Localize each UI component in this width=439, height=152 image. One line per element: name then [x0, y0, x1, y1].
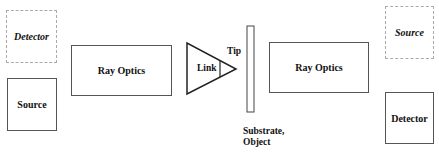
link-label: Link [197, 63, 217, 74]
substrate-bar [247, 26, 254, 112]
right-detector-box: Detector [385, 92, 434, 144]
right-ray-optics-label: Ray Optics [295, 62, 343, 73]
right-source-label: Source [395, 27, 424, 38]
substrate-label: Substrate, Object [243, 126, 284, 148]
right-source-box: Source [385, 6, 434, 59]
substrate-label-line1: Substrate, [243, 126, 284, 137]
right-detector-label: Detector [391, 113, 428, 124]
probe-and-substrate-shapes [0, 0, 439, 152]
right-ray-optics-box: Ray Optics [269, 42, 369, 93]
tip-label: Tip [227, 46, 241, 57]
substrate-label-line2: Object [243, 137, 284, 148]
